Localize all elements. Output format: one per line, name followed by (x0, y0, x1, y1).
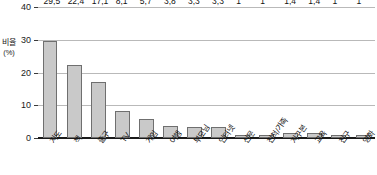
bar-column: 3,8 (163, 7, 178, 138)
bar: 22,4 (67, 65, 82, 138)
y-axis-tick-label: 30 (21, 35, 31, 45)
bar: 29,5 (43, 41, 58, 138)
bar-value-label: 5,7 (140, 0, 152, 6)
x-axis-labels: 지도책출구TV게임여행부모님인터넷신문친척/가족지구본교육친구영화 (38, 139, 375, 175)
y-axis-tick-label: 40 (21, 2, 31, 12)
bar-value-label: 1 (260, 0, 265, 6)
bar-series: 29,522,417,18,15,73,83,33,3111,41,411 (38, 7, 375, 138)
bar-column: 22,4 (67, 7, 82, 138)
bar-value-label: 8,1 (116, 0, 128, 6)
bar-value-label: 3,3 (212, 0, 224, 6)
bar-column: 1 (235, 7, 250, 138)
bar-value-label: 1 (236, 0, 241, 6)
bar-column: 5,7 (139, 7, 154, 138)
bar-column: 1,4 (307, 7, 322, 138)
y-axis-unit-text: (%) (2, 48, 16, 57)
plot-area: 010203040 29,522,417,18,15,73,83,33,3111… (38, 7, 375, 138)
bar-value-label: 17,1 (92, 0, 109, 6)
bar-column: 1 (356, 7, 371, 138)
bar-value-label: 1 (332, 0, 337, 6)
y-axis-tick-label: 10 (21, 100, 31, 110)
y-axis-title-text: 비율 (2, 38, 16, 47)
bar-value-label: 22,4 (68, 0, 85, 6)
bar-column: 3,3 (211, 7, 226, 138)
bar-value-label: 1 (357, 0, 362, 6)
bar-column: 3,3 (187, 7, 202, 138)
bar-value-label: 1,4 (284, 0, 296, 6)
bar-column: 17,1 (91, 7, 106, 138)
bar-column: 1 (331, 7, 346, 138)
bar-column: 1 (259, 7, 274, 138)
bar-value-label: 29,5 (44, 0, 61, 6)
bar-value-label: 3,8 (164, 0, 176, 6)
y-axis-title: 비율 (%) (2, 38, 16, 57)
bar-column: 8,1 (115, 7, 130, 138)
y-axis-tick-label: 20 (21, 68, 31, 78)
bar-value-label: 1,4 (308, 0, 320, 6)
bar-value-label: 3,3 (188, 0, 200, 6)
y-axis-tick-label: 0 (26, 133, 31, 143)
bar-column: 29,5 (43, 7, 58, 138)
